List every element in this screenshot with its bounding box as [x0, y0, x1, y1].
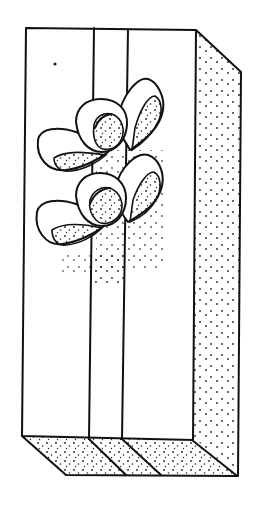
- gift-box-drawing: [0, 0, 259, 509]
- gift-box-illustration: [0, 0, 259, 509]
- box-side-face: [193, 30, 241, 476]
